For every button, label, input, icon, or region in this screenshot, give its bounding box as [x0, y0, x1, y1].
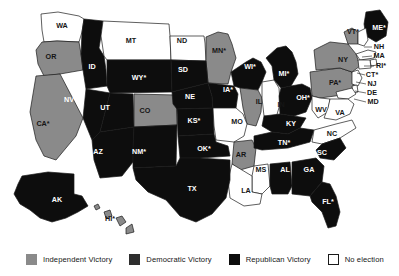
- state-vt[interactable]: [344, 28, 358, 44]
- state-ca[interactable]: [30, 74, 83, 160]
- state-label-ct: CT*: [366, 70, 379, 79]
- state-ct[interactable]: [358, 60, 371, 69]
- state-label-nj: NJ: [367, 79, 376, 88]
- legend-swatch-democratic: [129, 254, 140, 265]
- state-ms[interactable]: [252, 164, 270, 194]
- legend-swatch-independent: [26, 254, 37, 265]
- state-ri[interactable]: [370, 59, 377, 66]
- legend-item-republican[interactable]: Republican Victory: [229, 254, 311, 265]
- legend-swatch-no-election: [328, 254, 339, 265]
- state-oh[interactable]: [279, 84, 312, 116]
- us-map-svg[interactable]: WAORIDMTNDMN*WY*SDWI*MI*NVUTCONEIA*ILINO…: [0, 0, 399, 238]
- state-nj[interactable]: [352, 70, 362, 86]
- state-nd[interactable]: [170, 36, 206, 61]
- legend-item-democratic[interactable]: Democratic Victory: [129, 254, 211, 265]
- state-ks[interactable]: [177, 108, 214, 136]
- legend-label-no-election: No election: [345, 255, 384, 264]
- state-mn[interactable]: [206, 32, 236, 84]
- state-mt[interactable]: [101, 21, 171, 60]
- state-ma[interactable]: [356, 50, 376, 60]
- state-in[interactable]: [262, 80, 280, 118]
- state-ar[interactable]: [232, 140, 256, 170]
- legend-label-independent: Independent Victory: [43, 255, 112, 264]
- state-label-ri: RI*: [376, 61, 386, 70]
- state-az[interactable]: [92, 127, 134, 178]
- legend-label-democratic: Democratic Victory: [146, 255, 211, 264]
- state-label-md: MD: [367, 97, 378, 106]
- legend-item-independent[interactable]: Independent Victory: [26, 254, 112, 265]
- state-wa[interactable]: [41, 12, 84, 42]
- legend-item-no-election[interactable]: No election: [328, 254, 384, 265]
- state-or[interactable]: [36, 41, 83, 76]
- legend-swatch-republican: [229, 254, 240, 265]
- legend-label-republican: Republican Victory: [246, 255, 311, 264]
- state-co[interactable]: [134, 94, 177, 127]
- state-wi[interactable]: [231, 58, 266, 90]
- election-map-figure: WAORIDMTNDMN*WY*SDWI*MI*NVUTCONEIA*ILINO…: [0, 0, 399, 276]
- state-label-de: DE: [367, 88, 377, 97]
- state-hi[interactable]: [94, 204, 134, 234]
- state-wy[interactable]: [107, 60, 172, 93]
- state-nm[interactable]: [133, 125, 177, 168]
- state-tx[interactable]: [133, 158, 230, 222]
- state-al[interactable]: [270, 162, 292, 194]
- state-ny[interactable]: [314, 42, 360, 72]
- us-map[interactable]: WAORIDMTNDMN*WY*SDWI*MI*NVUTCONEIA*ILINO…: [0, 0, 399, 238]
- state-label-nh: NH: [374, 42, 384, 51]
- state-mo[interactable]: [213, 108, 247, 142]
- state-nh[interactable]: [358, 28, 368, 46]
- map-legend: Independent VictoryDemocratic VictoryRep…: [0, 244, 399, 274]
- state-shapes-group: [14, 10, 388, 234]
- state-ia[interactable]: [208, 83, 238, 108]
- state-ak[interactable]: [14, 172, 88, 222]
